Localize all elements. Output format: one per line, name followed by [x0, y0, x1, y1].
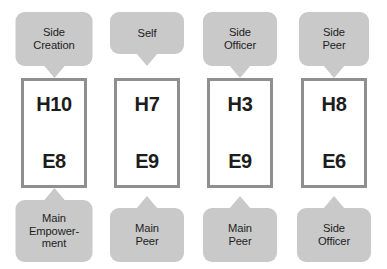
bottom-callout-1-label: Main Empower- ment	[25, 212, 83, 250]
card-box-3-bottom-label: E9	[228, 151, 252, 171]
callout-tail-up-icon	[229, 196, 251, 209]
card-box-2-bottom-label: E9	[135, 151, 159, 171]
top-callout-3[interactable]: Side Officer	[203, 12, 277, 66]
top-callout-2[interactable]: Self	[110, 12, 184, 54]
top-callout-3-label: Side Officer	[220, 26, 260, 51]
bottom-callout-2[interactable]: Main Peer	[110, 208, 184, 262]
bottom-callout-3-label: Main Peer	[224, 222, 256, 247]
top-callout-4[interactable]: Side Peer	[299, 12, 369, 66]
card-box-3-top-label: H3	[228, 94, 253, 114]
card-box-2[interactable]: H7 E9	[114, 78, 180, 188]
top-callout-4-label: Side Peer	[318, 26, 349, 51]
card-box-1[interactable]: H10 E8	[21, 78, 87, 188]
callout-tail-down-icon	[43, 65, 65, 78]
top-callout-1[interactable]: Side Creation	[16, 12, 93, 66]
diagram-column-2: Self H7 E9 Main Peer	[103, 0, 191, 269]
callout-tail-down-icon	[323, 65, 345, 78]
card-box-2-top-label: H7	[135, 94, 160, 114]
diagram-column-1: Side Creation H10 E8 Main Empower- ment	[8, 0, 100, 269]
card-box-1-bottom-label: E8	[42, 151, 66, 171]
diagram-column-4: Side Peer H8 E6 Side Officer	[289, 0, 379, 269]
card-box-4-top-label: H8	[322, 94, 347, 114]
callout-tail-up-icon	[136, 196, 158, 209]
top-callout-2-label: Self	[134, 27, 161, 40]
diagram-canvas: Side Creation H10 E8 Main Empower- ment …	[0, 0, 387, 269]
callout-tail-up-icon	[323, 196, 345, 209]
callout-tail-down-icon	[136, 53, 158, 66]
card-box-3[interactable]: H3 E9	[207, 78, 273, 188]
top-callout-1-label: Side Creation	[29, 26, 79, 51]
card-box-1-top-label: H10	[36, 94, 72, 114]
bottom-callout-4[interactable]: Side Officer	[297, 208, 371, 262]
card-box-4-bottom-label: E6	[322, 151, 346, 171]
card-box-4[interactable]: H8 E6	[301, 78, 367, 188]
bottom-callout-4-label: Side Officer	[314, 222, 354, 247]
bottom-callout-1[interactable]: Main Empower- ment	[16, 200, 93, 262]
callout-tail-down-icon	[229, 65, 251, 78]
callout-tail-up-icon	[43, 188, 65, 201]
diagram-column-3: Side Officer H3 E9 Main Peer	[194, 0, 286, 269]
bottom-callout-3[interactable]: Main Peer	[203, 208, 277, 262]
bottom-callout-2-label: Main Peer	[131, 222, 163, 247]
